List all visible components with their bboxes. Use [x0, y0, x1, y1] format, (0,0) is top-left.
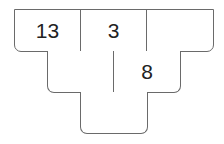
pyramid-cell-3-1 — [81, 92, 147, 133]
pyramid-row-2: 8 — [47, 51, 181, 93]
pyramid-row-1: 13 3 — [14, 9, 214, 52]
pyramid-cell-1-2: 3 — [81, 10, 147, 51]
pyramid-row-3 — [80, 92, 148, 134]
pyramid-cell-2-1 — [48, 51, 114, 92]
pyramid-cell-1-1: 13 — [15, 10, 81, 51]
pyramid-cell-2-2: 8 — [114, 51, 180, 92]
pyramid-cell-1-3 — [147, 10, 213, 51]
